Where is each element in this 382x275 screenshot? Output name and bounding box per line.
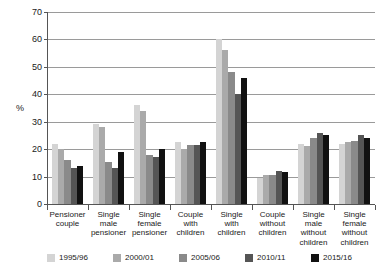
bar — [118, 152, 124, 204]
legend-item[interactable]: 2005/06 — [179, 253, 220, 262]
bar-group — [129, 12, 170, 204]
legend-label: 2000/01 — [125, 253, 154, 262]
bar-group — [170, 12, 211, 204]
legend-swatch-icon — [113, 254, 121, 262]
y-tick-label: 0 — [37, 200, 42, 209]
x-label-line: without — [330, 228, 379, 237]
x-label-line: female — [330, 219, 379, 228]
y-tick-label: 10 — [32, 172, 42, 181]
legend-swatch-icon — [245, 254, 253, 262]
legend-swatch-icon — [179, 254, 187, 262]
y-tick-label: 20 — [32, 145, 42, 154]
legend: 1995/962000/012005/062010/112015/16 — [47, 253, 377, 267]
legend-label: 2015/16 — [323, 253, 352, 262]
bar — [200, 142, 206, 204]
x-tick-mark — [129, 205, 130, 210]
y-tick-label: 40 — [32, 90, 42, 99]
y-tick-label: 50 — [32, 62, 42, 71]
bar-chart: % 010203040506070 PensionercoupleSinglem… — [0, 0, 382, 275]
legend-label: 2010/11 — [257, 253, 285, 262]
x-tick-mark — [88, 205, 89, 210]
bar-group — [334, 12, 375, 204]
bar — [323, 135, 329, 204]
bar-group — [47, 12, 88, 204]
bar-group — [211, 12, 252, 204]
legend-label: 2005/06 — [191, 253, 220, 262]
y-tick-label: 30 — [32, 117, 42, 126]
bars-layer — [47, 12, 375, 204]
x-tick-mark — [211, 205, 212, 210]
legend-item[interactable]: 2015/16 — [311, 253, 352, 262]
bar — [282, 172, 288, 204]
bar-group — [252, 12, 293, 204]
bar — [241, 78, 247, 204]
legend-item[interactable]: 2000/01 — [113, 253, 154, 262]
legend-swatch-icon — [47, 254, 55, 262]
y-axis-label: % — [16, 104, 24, 113]
x-tick-mark — [375, 205, 376, 210]
x-tick-mark — [252, 205, 253, 210]
x-tick-mark — [170, 205, 171, 210]
legend-swatch-icon — [311, 254, 319, 262]
bar — [77, 166, 83, 204]
x-tick-mark — [47, 205, 48, 210]
x-tick-mark — [334, 205, 335, 210]
bar — [159, 149, 165, 204]
y-tick-label: 60 — [32, 35, 42, 44]
y-tick-label: 70 — [32, 8, 42, 17]
x-label-line: children — [330, 238, 379, 247]
legend-item[interactable]: 2010/11 — [245, 253, 285, 262]
x-tick-mark — [293, 205, 294, 210]
x-axis-category-label: Singlefemalewithoutchildren — [330, 210, 379, 247]
bar-group — [293, 12, 334, 204]
legend-label: 1995/96 — [59, 253, 88, 262]
bar — [364, 138, 370, 204]
x-label-line: Single — [330, 210, 379, 219]
bar-group — [88, 12, 129, 204]
legend-item[interactable]: 1995/96 — [47, 253, 88, 262]
